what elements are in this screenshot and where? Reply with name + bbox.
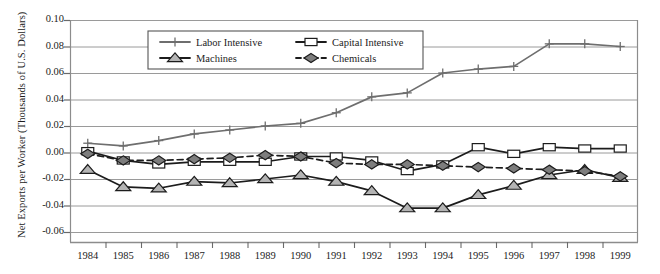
x-tick-label: 1988 xyxy=(219,250,240,261)
marker-square xyxy=(579,145,591,152)
x-tick-label: 1989 xyxy=(255,250,276,261)
legend: Labor IntensiveCapital IntensiveMachines… xyxy=(148,31,423,69)
plot-area: Labor IntensiveCapital IntensiveMachines… xyxy=(0,0,660,274)
x-tick-label: 1997 xyxy=(539,250,560,261)
x-tick-label: 1995 xyxy=(468,250,489,261)
y-tick-label: 0.10 xyxy=(20,13,64,24)
x-tick-label: 1998 xyxy=(574,250,595,261)
marker-diamond xyxy=(471,162,485,171)
marker-square xyxy=(543,144,555,151)
marker-diamond xyxy=(507,164,521,173)
y-tick-marks xyxy=(64,21,70,233)
y-tick-label: 0.08 xyxy=(20,40,64,51)
y-tick-label: -0.06 xyxy=(20,225,64,236)
series-line xyxy=(88,170,621,208)
marker-triangle xyxy=(187,176,202,185)
marker-triangle xyxy=(116,182,131,191)
x-tick-label: 1992 xyxy=(361,250,382,261)
marker-diamond xyxy=(542,165,556,174)
marker-square xyxy=(614,145,626,152)
y-tick-label: -0.02 xyxy=(20,172,64,183)
legend-label: Machines xyxy=(196,53,237,64)
y-tick-label: 0.06 xyxy=(20,66,64,77)
x-tick-label: 1987 xyxy=(184,250,205,261)
marker-triangle xyxy=(80,165,95,174)
series-line xyxy=(88,154,621,177)
x-tick-label: 1986 xyxy=(148,250,169,261)
x-tick-label: 1994 xyxy=(432,250,453,261)
legend-label: Chemicals xyxy=(332,53,376,64)
legend-label: Capital Intensive xyxy=(332,37,404,48)
marker-triangle xyxy=(293,170,308,179)
y-tick-label: 0.00 xyxy=(20,146,64,157)
x-tick-label: 1985 xyxy=(113,250,134,261)
marker-square xyxy=(508,150,520,157)
chart-container: Net Exports per Worker (Thousands of U.S… xyxy=(0,0,660,274)
marker-square xyxy=(305,38,317,45)
marker-diamond xyxy=(578,166,592,175)
x-tick-label: 1984 xyxy=(77,250,98,261)
y-axis-tick-labels: 0.100.080.060.040.020.00-0.02-0.04-0.06 xyxy=(18,0,64,274)
legend-label: Labor Intensive xyxy=(196,37,263,48)
marker-square xyxy=(472,144,484,151)
x-axis-tick-labels: 1984198519861987198819891990199119921993… xyxy=(0,248,660,268)
series-line xyxy=(88,147,621,171)
x-tick-label: 1996 xyxy=(503,250,524,261)
x-tick-label: 1999 xyxy=(610,250,631,261)
y-tick-label: 0.02 xyxy=(20,119,64,130)
x-tick-label: 1991 xyxy=(326,250,347,261)
x-tick-label: 1990 xyxy=(290,250,311,261)
y-tick-label: 0.04 xyxy=(20,93,64,104)
x-tick-label: 1993 xyxy=(397,250,418,261)
y-tick-label: -0.04 xyxy=(20,199,64,210)
